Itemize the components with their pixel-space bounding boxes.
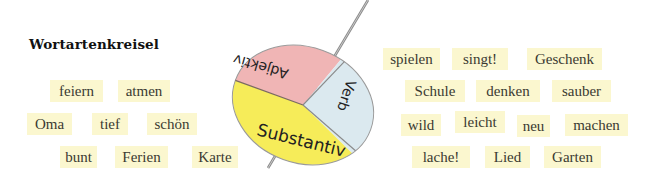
- word-chip[interactable]: Lied: [485, 146, 530, 168]
- word-chip[interactable]: machen: [565, 114, 628, 136]
- page-title: Wortartenkreisel: [29, 36, 159, 52]
- word-chip[interactable]: schön: [147, 113, 197, 135]
- word-chip[interactable]: Schule: [405, 80, 465, 102]
- word-chip[interactable]: lache!: [412, 146, 470, 168]
- word-chip[interactable]: Garten: [544, 146, 601, 168]
- word-chip[interactable]: sauber: [552, 80, 611, 102]
- word-chip[interactable]: Oma: [27, 113, 72, 135]
- word-chip[interactable]: tief: [92, 113, 128, 135]
- word-chip[interactable]: neu: [517, 115, 550, 137]
- word-chip[interactable]: Ferien: [115, 146, 168, 168]
- word-chip[interactable]: atmen: [118, 80, 170, 102]
- word-chip[interactable]: denken: [476, 80, 540, 102]
- word-chip[interactable]: bunt: [60, 146, 97, 168]
- word-chip[interactable]: Karte: [192, 146, 238, 168]
- word-chip[interactable]: spielen: [383, 48, 440, 70]
- word-chip[interactable]: singt!: [452, 48, 508, 70]
- word-chip[interactable]: leicht: [455, 111, 505, 133]
- word-chip[interactable]: wild: [401, 114, 441, 136]
- word-chip[interactable]: feiern: [50, 80, 103, 102]
- word-chip[interactable]: Geschenk: [527, 48, 602, 70]
